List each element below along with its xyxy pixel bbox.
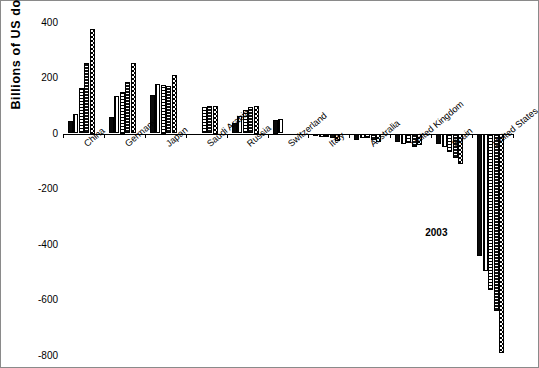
bar [84,63,89,134]
bar [477,134,482,256]
y-tick-label: 0 [16,129,58,139]
y-tick-label: -200 [16,184,58,194]
bar [395,134,400,143]
bar [161,85,166,134]
bar [79,88,84,134]
bar [202,107,207,133]
bar [172,75,177,134]
bar [442,134,447,148]
bar [483,134,488,271]
x-category-label: Italy [327,130,346,148]
bar [278,119,283,133]
bar [114,96,119,133]
x-tickmark [63,134,64,138]
bar [401,134,406,145]
bar [109,117,114,133]
bar [125,82,130,133]
bar [273,120,278,134]
bar [90,29,95,133]
plot-area: ChinaGermanyJapanSaudi ArabiaRussiaSwitz… [63,0,513,368]
y-tick-label: 400 [16,18,58,28]
bar [207,106,212,133]
y-tick-label: -600 [16,295,58,305]
bar [488,134,493,291]
bar [499,134,504,353]
bar [131,63,136,134]
y-tick-label: 200 [16,73,58,83]
x-tickmark [349,134,350,138]
bar [248,107,253,134]
bar [68,121,73,134]
y-tick-label: -400 [16,240,58,250]
bar [73,114,78,133]
bar [120,92,125,134]
bar [436,134,441,145]
x-category-label: Switzerland [286,110,329,148]
bar-chart: Billions of US dollars . 4002000-200-400… [0,0,539,368]
bar [494,134,499,312]
bar [166,86,171,134]
y-tick-label: -800 [16,351,58,361]
y-axis-tick-labels: 4002000-200-400-600-800 [16,0,58,368]
annotation-year-2003: 2003 [425,227,447,238]
